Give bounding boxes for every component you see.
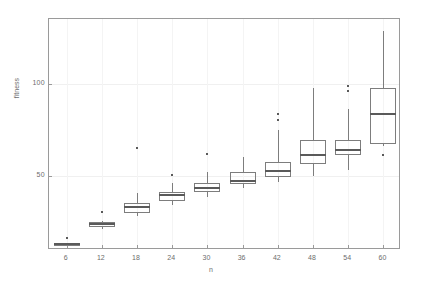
x-tick-label: 60 — [378, 254, 386, 261]
x-tick-label: 54 — [343, 254, 351, 261]
x-tick-label: 24 — [167, 254, 175, 261]
median-line — [370, 113, 396, 115]
x-tick-label: 18 — [132, 254, 140, 261]
outlier-point — [382, 154, 384, 156]
boxplot-figure: fitness n 10050 6121824303642485460 — [0, 0, 422, 283]
x-tick-label: 42 — [273, 254, 281, 261]
x-tick-label: 48 — [308, 254, 316, 261]
y-tick-label: 50 — [37, 171, 45, 178]
x-axis-label: n — [0, 266, 422, 273]
y-axis-label: fitness — [13, 58, 20, 118]
box-iqr — [370, 88, 396, 143]
whisker-upper — [383, 31, 384, 88]
x-tick-label: 30 — [202, 254, 210, 261]
box-plot-item[interactable] — [49, 19, 399, 248]
x-tick-label: 36 — [238, 254, 246, 261]
whisker-lower — [383, 144, 384, 146]
y-tick-label: 100 — [32, 79, 45, 86]
plot-area — [48, 18, 400, 249]
x-tick-label: 12 — [97, 254, 105, 261]
x-tick-label: 6 — [64, 254, 68, 261]
